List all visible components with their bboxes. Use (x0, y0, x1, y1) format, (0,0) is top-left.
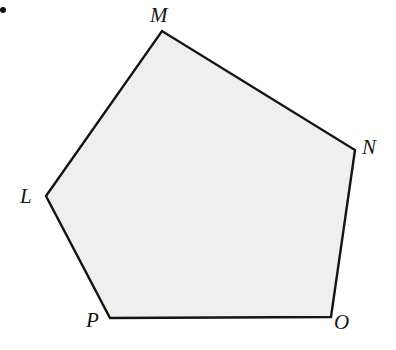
pentagon-svg (0, 0, 396, 350)
vertex-label-M: M (150, 5, 168, 26)
pentagon-shape (46, 31, 355, 318)
geometry-figure: L M N O P (0, 0, 396, 350)
vertex-label-O: O (334, 312, 349, 333)
vertex-label-L: L (20, 186, 32, 207)
vertex-label-N: N (362, 137, 376, 158)
vertex-label-P: P (86, 310, 99, 331)
